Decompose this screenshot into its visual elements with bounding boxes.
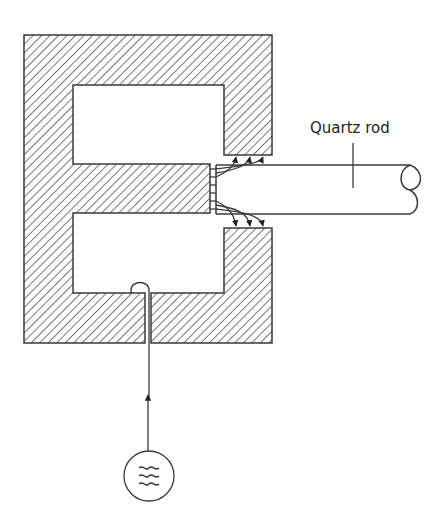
magnetic-core [24,35,272,343]
quartz-rod-label: Quartz rod [310,119,390,137]
field-lines [210,157,263,226]
diagram-canvas: Quartz rod [0,0,439,520]
oscillator-source [124,451,174,501]
quartz-rod [216,165,421,214]
core-body-right [151,228,272,343]
